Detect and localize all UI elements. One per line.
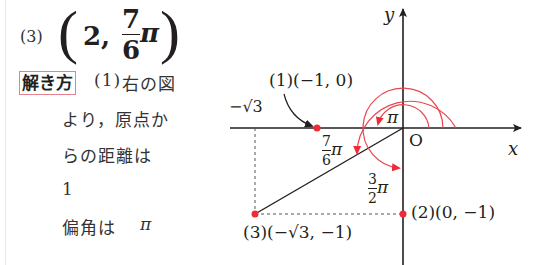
point-1 [314, 125, 321, 132]
fraction-bar [322, 150, 331, 151]
point1-label: (1)(−1, 0) [269, 70, 353, 90]
neg-sqrt3-label: −√3 [229, 97, 263, 116]
origin-label: O [409, 130, 423, 150]
point2-label: (2)(0, −1) [411, 202, 495, 222]
numerator: 3 [368, 172, 377, 186]
angle-3-2-pi-label: 3 2 π [368, 172, 388, 205]
point3-label: (3)(−√3, −1) [243, 222, 352, 242]
numerator: 7 [322, 134, 331, 148]
y-axis-label: y [384, 4, 394, 25]
point-2 [400, 211, 407, 218]
angle-7-6-pi-label: 7 6 π [322, 134, 342, 167]
pi-symbol: π [377, 177, 388, 197]
arc-7-6-pi [357, 101, 456, 153]
x-axis-label: x [508, 138, 518, 159]
pi-symbol: π [331, 139, 342, 159]
point-3 [252, 211, 259, 218]
fraction-bar [368, 188, 377, 189]
denominator: 6 [322, 153, 331, 167]
angle-pi-label: π [387, 107, 398, 127]
point1-leader-arrow [284, 94, 312, 126]
denominator: 2 [368, 191, 377, 205]
